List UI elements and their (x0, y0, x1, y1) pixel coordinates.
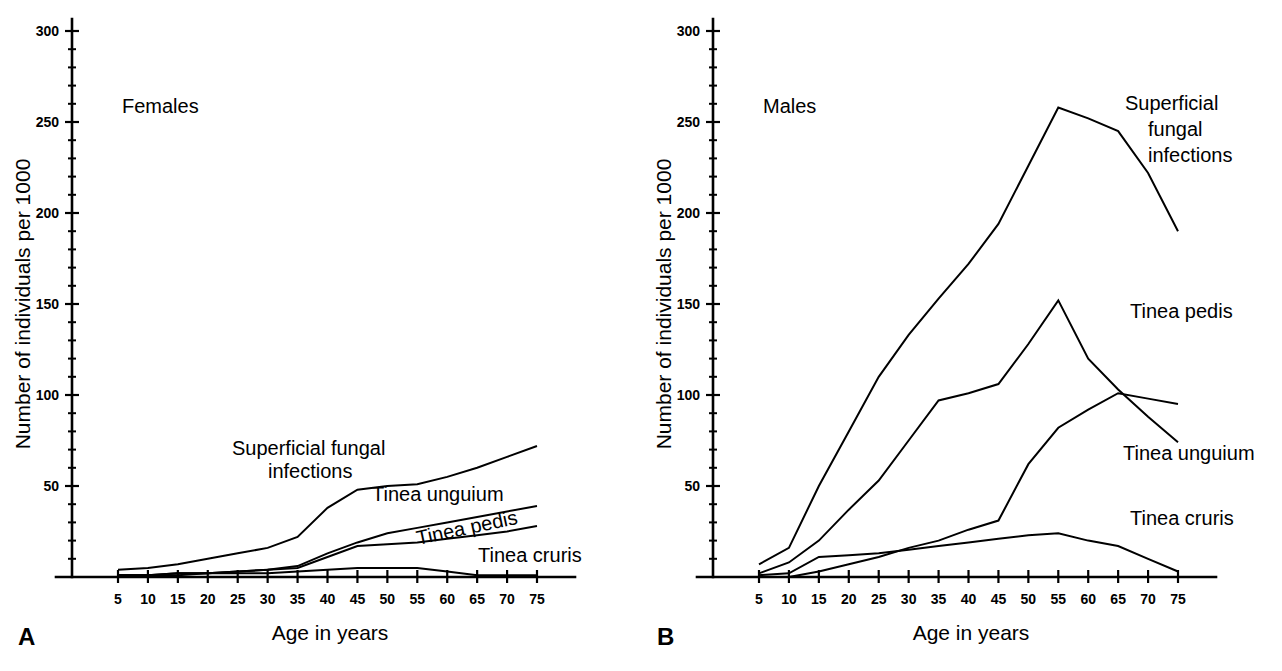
chart-b-svg: 5010015020025030051015202530354045505560… (641, 0, 1282, 671)
y-tick-label: 100 (36, 387, 60, 403)
x-tick-label: 10 (781, 591, 797, 607)
y-tick-label: 300 (677, 23, 701, 39)
x-tick-label: 60 (1080, 591, 1096, 607)
group-title: Females (122, 95, 199, 117)
y-tick-label: 100 (677, 387, 701, 403)
x-tick-label: 35 (290, 591, 306, 607)
series-annotation-label: infections (268, 460, 353, 482)
x-tick-label: 20 (841, 591, 857, 607)
x-tick-label: 50 (1021, 591, 1037, 607)
series-line-tinea-cruris (759, 533, 1178, 575)
x-tick-label: 40 (961, 591, 977, 607)
y-tick-label: 300 (36, 23, 60, 39)
series-annotation-label: Superficial (1125, 92, 1218, 114)
x-axis-title: Age in years (913, 621, 1030, 644)
x-tick-label: 25 (230, 591, 246, 607)
series-annotation-label: fungal (1148, 118, 1203, 140)
series-annotation-label: Superficial fungal (232, 437, 385, 459)
panel-b-males: 5010015020025030051015202530354045505560… (641, 0, 1282, 671)
x-tick-label: 50 (380, 591, 396, 607)
series-line-superficial-fungal-infections (759, 107, 1178, 564)
x-tick-label: 40 (320, 591, 336, 607)
series-line-tinea-unguium (759, 393, 1178, 577)
x-tick-label: 25 (871, 591, 887, 607)
x-tick-label: 5 (114, 591, 122, 607)
y-tick-label: 200 (677, 205, 701, 221)
x-tick-label: 20 (200, 591, 216, 607)
y-tick-label: 50 (684, 478, 700, 494)
y-tick-label: 150 (677, 296, 701, 312)
series-annotation-label: Tinea pedis (1130, 300, 1233, 322)
y-axis-title: Number of individuals per 1000 (652, 159, 675, 450)
x-tick-label: 55 (1050, 591, 1066, 607)
series-annotation-label: Tinea unguium (372, 483, 504, 505)
x-tick-label: 75 (1170, 591, 1186, 607)
group-title: Males (763, 95, 816, 117)
y-axis-title: Number of individuals per 1000 (11, 159, 34, 450)
x-tick-label: 45 (991, 591, 1007, 607)
x-tick-label: 15 (811, 591, 827, 607)
panel-a-females: 5010015020025030051015202530354045505560… (0, 0, 641, 671)
x-tick-label: 65 (469, 591, 485, 607)
x-tick-label: 75 (529, 591, 545, 607)
chart-group: 5010015020025030051015202530354045505560… (11, 19, 582, 650)
figure-sheet: 5010015020025030051015202530354045505560… (0, 0, 1282, 671)
x-tick-label: 15 (170, 591, 186, 607)
y-tick-label: 50 (43, 478, 59, 494)
y-tick-label: 150 (36, 296, 60, 312)
series-annotation-label: infections (1148, 144, 1233, 166)
x-tick-label: 10 (140, 591, 156, 607)
x-tick-label: 30 (260, 591, 276, 607)
x-tick-label: 60 (439, 591, 455, 607)
series-annotation-label: Tinea unguium (1123, 442, 1255, 464)
x-tick-label: 70 (1140, 591, 1156, 607)
x-tick-label: 5 (755, 591, 763, 607)
x-tick-label: 35 (931, 591, 947, 607)
series-annotation-label: Tinea cruris (478, 544, 582, 566)
x-axis-title: Age in years (272, 621, 389, 644)
series-annotation-label: Tinea cruris (1130, 507, 1234, 529)
chart-group: 5010015020025030051015202530354045505560… (652, 19, 1255, 650)
series-line-tinea-pedis (759, 300, 1178, 573)
y-tick-label: 250 (36, 114, 60, 130)
y-tick-label: 250 (677, 114, 701, 130)
panel-letter: A (18, 623, 35, 650)
chart-a-svg: 5010015020025030051015202530354045505560… (0, 0, 641, 671)
y-tick-label: 200 (36, 205, 60, 221)
x-tick-label: 55 (409, 591, 425, 607)
series-annotation-label: Tinea pedis (414, 506, 519, 549)
x-tick-label: 65 (1110, 591, 1126, 607)
x-tick-label: 70 (499, 591, 515, 607)
x-tick-label: 45 (350, 591, 366, 607)
panel-letter: B (657, 623, 674, 650)
x-tick-label: 30 (901, 591, 917, 607)
